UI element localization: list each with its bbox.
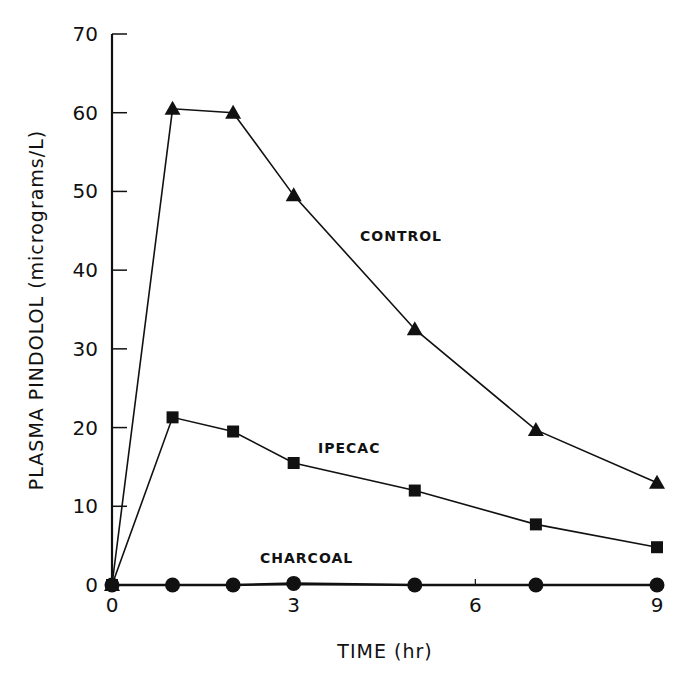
series-label-control: CONTROL bbox=[360, 228, 442, 244]
series-line-charcoal bbox=[112, 583, 657, 585]
series-line-ipecac bbox=[112, 417, 657, 585]
marker-charcoal-circle-icon bbox=[226, 578, 241, 593]
marker-control-triangle-icon bbox=[165, 101, 181, 115]
y-tick-label: 30 bbox=[73, 337, 98, 361]
series-line-control bbox=[112, 109, 657, 585]
y-tick-label: 40 bbox=[73, 258, 98, 282]
marker-charcoal-circle-icon bbox=[650, 578, 665, 593]
axis-ticks: 0102030405060700369 bbox=[73, 22, 664, 617]
x-tick-label: 0 bbox=[106, 593, 119, 617]
marker-charcoal-circle-icon bbox=[105, 578, 120, 593]
x-tick-label: 6 bbox=[469, 593, 482, 617]
marker-ipecac-square-icon bbox=[530, 518, 542, 530]
y-tick-label: 50 bbox=[73, 179, 98, 203]
marker-control-triangle-icon bbox=[286, 187, 302, 201]
marker-charcoal-circle-icon bbox=[407, 578, 422, 593]
pindolol-line-chart: 0102030405060700369 TIME (hr) PLASMA PIN… bbox=[0, 0, 689, 693]
series-lines bbox=[112, 109, 657, 585]
y-tick-label: 0 bbox=[85, 573, 98, 597]
y-tick-label: 20 bbox=[73, 416, 98, 440]
axes bbox=[112, 34, 657, 585]
marker-charcoal-circle-icon bbox=[528, 578, 543, 593]
series-label-charcoal: CHARCOAL bbox=[260, 550, 353, 566]
series-markers bbox=[104, 101, 665, 593]
marker-ipecac-square-icon bbox=[227, 426, 239, 438]
y-tick-label: 10 bbox=[73, 494, 98, 518]
series-label-ipecac: IPECAC bbox=[318, 440, 380, 456]
marker-charcoal-circle-icon bbox=[165, 578, 180, 593]
x-tick-label: 3 bbox=[287, 593, 300, 617]
marker-ipecac-square-icon bbox=[288, 457, 300, 469]
x-axis-title: TIME (hr) bbox=[336, 640, 432, 662]
y-tick-label: 70 bbox=[73, 22, 98, 46]
marker-ipecac-square-icon bbox=[651, 541, 663, 553]
marker-ipecac-square-icon bbox=[167, 411, 179, 423]
y-tick-label: 60 bbox=[73, 101, 98, 125]
marker-control-triangle-icon bbox=[528, 422, 544, 436]
marker-charcoal-circle-icon bbox=[286, 576, 301, 591]
marker-ipecac-square-icon bbox=[409, 485, 421, 497]
x-tick-label: 9 bbox=[651, 593, 664, 617]
marker-control-triangle-icon bbox=[649, 475, 665, 489]
y-axis-title: PLASMA PINDOLOL (micrograms/L) bbox=[25, 130, 47, 490]
